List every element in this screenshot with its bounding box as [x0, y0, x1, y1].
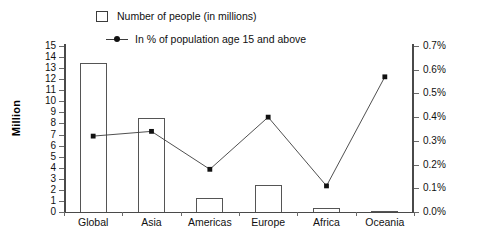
y-tick-right [414, 93, 419, 94]
y-tick-label-right: 0.1% [423, 183, 446, 193]
y-tick-label-left: 8 [50, 118, 56, 128]
y-tick-label-left: 15 [45, 41, 56, 51]
legend-item-bars: Number of people (in millions) [96, 8, 396, 24]
y-tick-right [414, 141, 419, 142]
legend-label-line: In % of population age 15 and above [135, 33, 306, 45]
y-tick-right [414, 117, 419, 118]
x-axis-label: Americas [188, 216, 232, 229]
y-tick-label-left: 1 [50, 196, 56, 206]
x-axis-label: Oceania [365, 216, 404, 229]
y-tick-right [414, 70, 419, 71]
y-tick-label-left: 6 [50, 141, 56, 151]
x-axis-label: Asia [141, 216, 161, 229]
y-tick-label-left: 4 [50, 163, 56, 173]
line-marker [207, 167, 212, 172]
y-axis-title-left: Million [10, 88, 22, 148]
y-tick-label-right: 0.6% [423, 65, 446, 75]
y-tick-label-left: 7 [50, 130, 56, 140]
y-tick-label-left: 3 [50, 174, 56, 184]
y-tick-label-left: 10 [45, 96, 56, 106]
bar-swatch-icon [96, 11, 108, 22]
y-tick-label-left: 0 [50, 207, 56, 217]
line-marker [382, 74, 387, 79]
x-axis-label: Africa [313, 216, 340, 229]
legend-item-line: In % of population age 15 and above [96, 31, 396, 47]
y-tick-right [414, 165, 419, 166]
line-series [64, 46, 414, 212]
x-axis-labels: GlobalAsiaAmericasEuropeAfricaOceania [64, 216, 414, 232]
line-marker [324, 184, 329, 189]
y-tick-label-left: 13 [45, 63, 56, 73]
y-tick-label-right: 0.3% [423, 136, 446, 146]
y-tick-label-left: 5 [50, 152, 56, 162]
y-tick-label-right: 0.0% [423, 207, 446, 217]
y-tick-label-left: 14 [45, 52, 56, 62]
line-marker-icon [106, 34, 128, 45]
legend-label-bars: Number of people (in millions) [117, 10, 256, 22]
x-tick [414, 212, 415, 216]
y-tick-label-left: 9 [50, 107, 56, 117]
line-marker [266, 115, 271, 120]
y-tick-label-right: 0.4% [423, 112, 446, 122]
line-marker [149, 129, 154, 134]
plot-area: 1514131211109876543210 0.7%0.6%0.5%0.4%0… [64, 46, 414, 212]
x-axis-label: Europe [251, 216, 285, 229]
y-tick-right [414, 46, 419, 47]
y-tick-label-right: 0.2% [423, 160, 446, 170]
y-tick-label-right: 0.7% [423, 41, 446, 51]
y-tick-label-left: 2 [50, 185, 56, 195]
y-tick-label-left: 11 [46, 85, 56, 95]
chart-container: Number of people (in millions) In % of p… [0, 0, 480, 247]
y-tick-right [414, 188, 419, 189]
x-axis-label: Global [78, 216, 108, 229]
y-tick-label-right: 0.5% [423, 88, 446, 98]
line-path [93, 77, 385, 186]
y-tick-label-left: 12 [45, 74, 56, 84]
line-marker [91, 134, 96, 139]
